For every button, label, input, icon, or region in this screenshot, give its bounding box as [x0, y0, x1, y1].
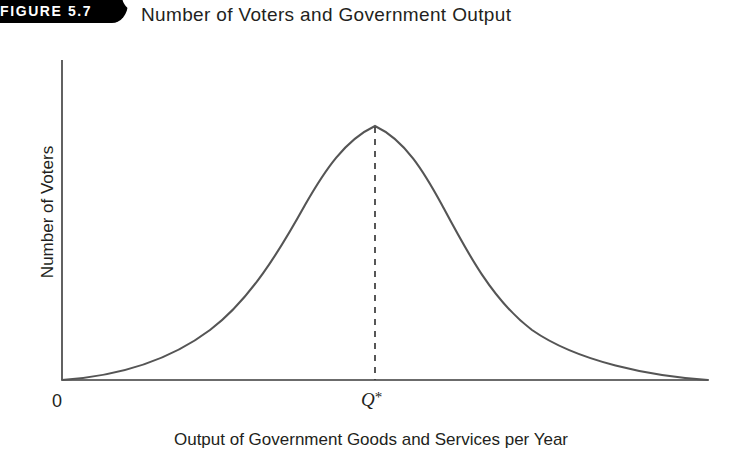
- qstar-symbol: Q: [361, 389, 375, 410]
- figure-container: FIGURE 5.7 Number of Voters and Governme…: [0, 0, 742, 460]
- origin-tick-label: 0: [52, 391, 62, 412]
- qstar-tick-label: Q*: [361, 389, 382, 411]
- y-axis-label: Number of Voters: [38, 112, 58, 312]
- x-axis-label: Output of Government Goods and Services …: [0, 430, 742, 450]
- qstar-asterisk: *: [375, 389, 383, 405]
- voter-distribution-curve: [62, 126, 708, 380]
- plot-area: Number of Voters Output of Government Go…: [0, 0, 742, 460]
